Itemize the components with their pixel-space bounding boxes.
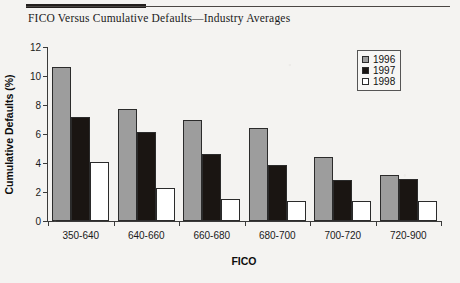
header-rule-thin: [26, 6, 450, 7]
x-axis-tick: [48, 221, 49, 226]
bar-group: [48, 47, 114, 221]
bar-1996-680-700[interactable]: [249, 128, 268, 221]
legend-item-label: 1997: [373, 65, 395, 76]
bar-1997-640-660[interactable]: [137, 132, 156, 221]
bar-group: [114, 47, 180, 221]
x-axis-tick-label: 700-720: [324, 230, 361, 241]
bar-group: [245, 47, 311, 221]
chart-title: FICO Versus Cumulative Defaults—Industry…: [28, 12, 290, 24]
figure-container: FICO Versus Cumulative Defaults—Industry…: [0, 0, 460, 283]
bar-1997-350-640[interactable]: [71, 117, 90, 221]
bar-1998-680-700[interactable]: [287, 201, 306, 221]
y-axis-title: Cumulative Defaults (%): [2, 47, 16, 222]
legend-item-1996[interactable]: 1996: [362, 54, 395, 65]
bar-1996-660-680[interactable]: [183, 120, 202, 221]
legend-item-1997[interactable]: 1997: [362, 65, 395, 76]
bar-1998-350-640[interactable]: [90, 162, 109, 221]
bar-1996-350-640[interactable]: [52, 67, 71, 221]
bar-1997-680-700[interactable]: [268, 165, 287, 221]
legend-item-label: 1998: [373, 76, 395, 87]
bar-1997-660-680[interactable]: [202, 154, 221, 221]
legend-swatch-icon: [362, 56, 369, 63]
chart-legend: 199619971998: [357, 50, 401, 91]
y-axis-tick-label: 4: [35, 158, 41, 169]
bar-1996-700-720[interactable]: [314, 157, 333, 221]
y-axis-tick-label: 2: [35, 187, 41, 198]
y-axis-tick-label: 10: [30, 71, 41, 82]
y-axis-tick-label: 6: [35, 129, 41, 140]
bar-1998-660-680[interactable]: [221, 199, 240, 221]
bar-1997-700-720[interactable]: [333, 180, 352, 221]
y-axis-tick-label: 8: [35, 100, 41, 111]
x-axis-tick: [114, 221, 115, 226]
legend-item-label: 1996: [373, 54, 395, 65]
x-axis-tick-label: 640-660: [128, 230, 165, 241]
bar-1997-720-900[interactable]: [399, 179, 418, 221]
x-axis-tick-label: 720-900: [390, 230, 427, 241]
x-axis-tick: [441, 221, 442, 226]
x-axis-tick: [310, 221, 311, 226]
bar-1998-700-720[interactable]: [352, 201, 371, 221]
x-axis-tick: [245, 221, 246, 226]
legend-swatch-icon: [362, 78, 369, 85]
y-axis-tick-label: 0: [35, 216, 41, 227]
bar-1996-720-900[interactable]: [380, 175, 399, 221]
x-axis-tick-label: 660-680: [193, 230, 230, 241]
legend-item-1998[interactable]: 1998: [362, 76, 395, 87]
x-axis-title: FICO: [47, 255, 441, 267]
x-axis-tick: [376, 221, 377, 226]
y-axis-tick-label: 12: [30, 42, 41, 53]
x-axis-tick: [179, 221, 180, 226]
legend-swatch-icon: [362, 67, 369, 74]
bar-1996-640-660[interactable]: [118, 109, 137, 221]
x-axis-tick-label: 680-700: [259, 230, 296, 241]
x-axis-tick-label: 350-640: [62, 230, 99, 241]
bar-1998-720-900[interactable]: [418, 201, 437, 221]
bar-1998-640-660[interactable]: [156, 188, 175, 221]
bar-group: [179, 47, 245, 221]
